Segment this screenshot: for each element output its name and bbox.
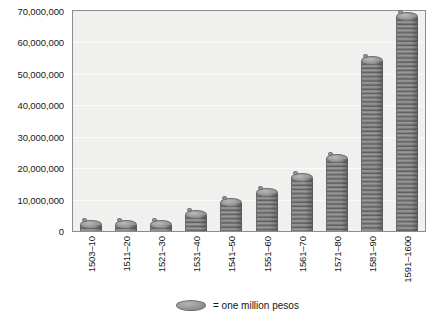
x-axis-tick-label: 1591–1600 bbox=[402, 236, 413, 283]
bar bbox=[150, 11, 172, 231]
coin-stack bbox=[396, 17, 418, 231]
y-axis-tick-label: 50,000,000 bbox=[17, 68, 64, 79]
y-axis-tick-label: 30,000,000 bbox=[17, 131, 64, 142]
y-axis-tick-label: 10,000,000 bbox=[17, 194, 64, 205]
bar bbox=[326, 11, 348, 231]
coin-edge-nub-icon bbox=[328, 152, 333, 156]
x-axis-tick-label: 1551–60 bbox=[262, 236, 273, 272]
bar bbox=[185, 11, 207, 231]
bar bbox=[220, 11, 242, 231]
x-axis-tick-label: 1511–20 bbox=[121, 236, 132, 272]
bars-container bbox=[73, 11, 425, 231]
y-axis: 010,000,00020,000,00030,000,00040,000,00… bbox=[0, 10, 68, 232]
x-axis-tick-label: 1581–90 bbox=[367, 236, 378, 272]
coin-stack bbox=[361, 61, 383, 231]
bar bbox=[80, 11, 102, 231]
chart-page: 010,000,00020,000,00030,000,00040,000,00… bbox=[0, 0, 434, 320]
coin-stack bbox=[80, 225, 102, 231]
coin-stack bbox=[115, 225, 137, 231]
bar bbox=[361, 11, 383, 231]
bar bbox=[256, 11, 278, 231]
x-axis: 1503–101511–201521–301531–401541–501551–… bbox=[73, 236, 425, 296]
coin-edge-nub-icon bbox=[152, 218, 157, 222]
x-axis-tick-label: 1571–80 bbox=[332, 236, 343, 272]
legend-label: = one million pesos bbox=[213, 300, 299, 311]
x-axis-tick-label: 1521–30 bbox=[156, 236, 167, 272]
y-axis-tick-label: 40,000,000 bbox=[17, 100, 64, 111]
bar bbox=[115, 11, 137, 231]
coin-ellipse-icon bbox=[176, 300, 206, 311]
x-axis-tick-label: 1561–70 bbox=[297, 236, 308, 272]
coin-stack bbox=[326, 159, 348, 231]
legend: = one million pesos bbox=[176, 296, 299, 314]
coin-stack bbox=[150, 225, 172, 231]
bar bbox=[291, 11, 313, 231]
coin-edge-nub-icon bbox=[293, 171, 298, 175]
coin-edge-nub-icon bbox=[82, 218, 87, 222]
x-axis-tick-label: 1531–40 bbox=[191, 236, 202, 272]
bar bbox=[396, 11, 418, 231]
x-axis-tick-label: 1503–10 bbox=[86, 236, 97, 272]
coin-edge-nub-icon bbox=[117, 218, 122, 222]
y-axis-tick-label: 60,000,000 bbox=[17, 37, 64, 48]
y-axis-tick-label: 0 bbox=[59, 226, 64, 237]
coin-stack bbox=[185, 215, 207, 231]
coin-stack bbox=[256, 193, 278, 231]
y-axis-tick-label: 20,000,000 bbox=[17, 163, 64, 174]
coin-stack bbox=[291, 178, 313, 231]
y-axis-tick-label: 70,000,000 bbox=[17, 6, 64, 17]
x-axis-tick-label: 1541–50 bbox=[226, 236, 237, 272]
coin-stack bbox=[220, 203, 242, 231]
